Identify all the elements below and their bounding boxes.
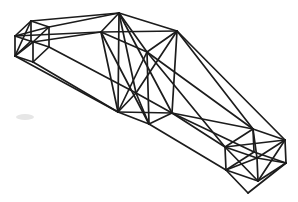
truss-member bbox=[33, 62, 118, 112]
truss-member bbox=[253, 129, 254, 152]
truss-member bbox=[149, 113, 172, 124]
truss-member bbox=[225, 147, 226, 170]
truss-wireframe-drawing bbox=[0, 0, 298, 202]
truss-figure bbox=[0, 0, 298, 202]
truss-member bbox=[172, 113, 254, 152]
truss-member bbox=[101, 32, 118, 112]
truss-member bbox=[177, 31, 253, 129]
truss-member bbox=[33, 47, 49, 62]
truss-member bbox=[118, 93, 136, 112]
truss-member bbox=[118, 13, 119, 112]
truss-member bbox=[257, 158, 258, 181]
truss-member bbox=[149, 124, 226, 170]
truss-member bbox=[31, 21, 49, 27]
truss-member bbox=[101, 31, 177, 32]
truss-member bbox=[285, 140, 286, 163]
truss-member bbox=[147, 31, 177, 52]
scan-smudge-artifact bbox=[16, 114, 34, 120]
truss-member bbox=[31, 13, 119, 21]
page-canvas bbox=[0, 0, 298, 202]
truss-member bbox=[49, 47, 136, 93]
